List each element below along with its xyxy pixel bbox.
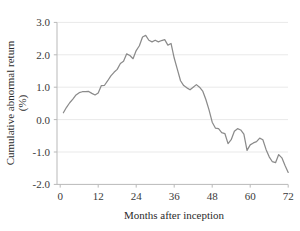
x-tick-label-12: 12	[93, 190, 104, 202]
x-tick-label-0: 0	[57, 190, 63, 202]
x-tick-label-48: 48	[207, 190, 219, 202]
line-chart: 3.0 2.0 1.0 0.0 -1.0 -2.0 0 12 24 36 48 …	[0, 0, 300, 231]
x-axis-title: Months after inception	[124, 209, 225, 221]
x-tick-label-24: 24	[131, 190, 143, 202]
y-axis-title-line1: Cumulative abnormal return	[4, 40, 16, 165]
y-tick-label-0.0: 0.0	[36, 114, 50, 126]
x-tick-label-72: 72	[283, 190, 294, 202]
y-axis-title-line2: (%)	[16, 94, 29, 111]
x-tick-label-60: 60	[245, 190, 257, 202]
y-tick-label-1.0: 1.0	[36, 81, 50, 93]
x-tick-label-36: 36	[169, 190, 181, 202]
chart-container: 3.0 2.0 1.0 0.0 -1.0 -2.0 0 12 24 36 48 …	[0, 0, 300, 231]
y-tick-label-2.0: 2.0	[36, 49, 50, 61]
y-tick-label--1.0: -1.0	[33, 146, 51, 158]
y-tick-label--2.0: -2.0	[33, 178, 51, 190]
y-tick-label-3.0: 3.0	[36, 16, 50, 28]
